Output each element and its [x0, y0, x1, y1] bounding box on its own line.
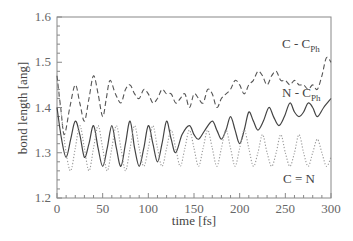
legend-label-c-cph: C - CPh	[282, 36, 320, 54]
y-tick-label: 1.3	[35, 145, 51, 160]
legend-label-c-n: C = N	[283, 171, 316, 186]
svg-text:N - CPh: N - CPh	[282, 85, 321, 103]
y-axis-tick-labels: 1.21.31.41.51.6	[35, 9, 52, 205]
x-tick-label: 100	[139, 201, 159, 216]
x-tick-label: 300	[321, 201, 341, 216]
x-tick-label: 50	[96, 201, 109, 216]
x-tick-label: 200	[230, 201, 250, 216]
y-tick-label: 1.4	[35, 100, 52, 115]
c-cph-sub: Ph	[310, 44, 320, 54]
bond-length-chart: 050100150200250300 1.21.31.41.51.6 time …	[0, 0, 353, 241]
y-tick-label: 1.2	[35, 190, 51, 205]
svg-text:C - CPh: C - CPh	[282, 36, 320, 54]
c-cph-main: C - C	[282, 36, 310, 51]
x-axis-ticks	[57, 193, 331, 198]
y-axis-ticks	[57, 17, 62, 198]
y-tick-label: 1.6	[35, 9, 52, 24]
series-solid-line	[57, 99, 331, 167]
n-cph-sub: Ph	[311, 93, 321, 103]
x-tick-label: 0	[54, 201, 61, 216]
x-tick-label: 250	[276, 201, 296, 216]
x-axis-title: time [fs]	[172, 213, 216, 228]
legend-label-n-cph: N - CPh	[282, 85, 321, 103]
y-axis-title: bond length [ang]	[15, 62, 30, 154]
n-cph-main: N - C	[282, 85, 311, 100]
series-layer	[57, 57, 331, 171]
y-tick-label: 1.5	[35, 54, 51, 69]
